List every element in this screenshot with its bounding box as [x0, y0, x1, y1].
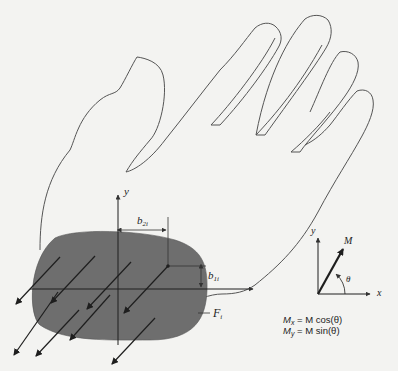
- my-lhs: M: [283, 325, 291, 336]
- b2-label: b2i: [137, 215, 148, 228]
- force-label: Fi: [213, 307, 222, 321]
- inset-m-label: M: [344, 236, 352, 246]
- force-subscript: i: [220, 313, 222, 321]
- mx-lhs: M: [283, 314, 291, 325]
- contact-patch: [32, 231, 207, 340]
- inset-x-label: x: [377, 288, 381, 298]
- b2-subscript: 2i: [143, 220, 148, 228]
- my-sub: y: [291, 330, 295, 337]
- mx-rhs: = M cos(θ): [297, 314, 342, 325]
- b1-label: b1i: [208, 270, 219, 283]
- inset-axes: [318, 238, 370, 294]
- inset-theta-label: θ: [346, 275, 350, 284]
- y-axis-label: y: [124, 186, 129, 197]
- inset-y-label: y: [311, 226, 315, 236]
- diagram-canvas: y b2i b1i Fi y x M θ Mx = M cos(θ) My = …: [0, 0, 398, 371]
- equation-my: My = M sin(θ): [283, 325, 340, 339]
- b1-subscript: 1i: [214, 275, 219, 283]
- my-rhs: = M sin(θ): [297, 325, 340, 336]
